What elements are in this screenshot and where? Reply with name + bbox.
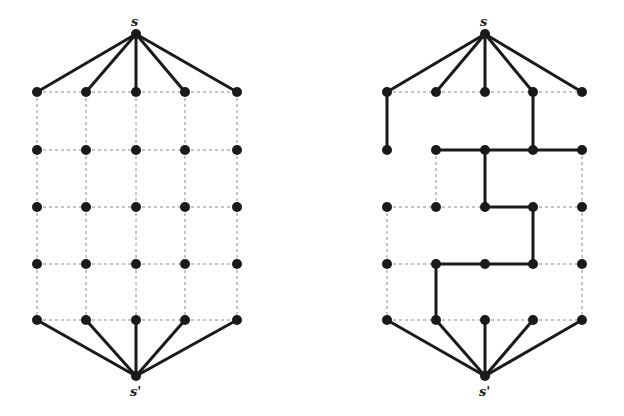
grid-node	[431, 145, 441, 155]
grid-node	[431, 202, 441, 212]
sink-edge	[86, 320, 136, 376]
sink-node	[131, 371, 141, 381]
grid-node	[131, 202, 141, 212]
grid-node	[131, 145, 141, 155]
right-sink-label: s'	[479, 384, 490, 399]
sink-node	[480, 371, 490, 381]
grid-node	[431, 259, 441, 269]
source-node	[480, 29, 490, 39]
grid-node	[382, 145, 392, 155]
source-edge	[136, 34, 185, 92]
grid-node	[528, 315, 538, 325]
grid-node	[131, 87, 141, 97]
grid-node	[32, 145, 42, 155]
grid-node	[232, 202, 242, 212]
grid-node	[480, 202, 490, 212]
grid-node	[180, 145, 190, 155]
grid-node	[232, 145, 242, 155]
grid-node	[180, 315, 190, 325]
grid-node	[180, 259, 190, 269]
source-node	[131, 29, 141, 39]
sink-edge	[136, 320, 237, 376]
sink-edge	[387, 320, 485, 376]
grid-node	[382, 202, 392, 212]
grid-node	[232, 87, 242, 97]
grid-node	[528, 87, 538, 97]
grid-node	[431, 315, 441, 325]
grid-node	[81, 259, 91, 269]
grid-node	[577, 315, 587, 325]
grid-node	[528, 202, 538, 212]
right-source-label: s	[480, 14, 488, 29]
grid-node	[480, 259, 490, 269]
source-edge	[436, 34, 485, 92]
grid-node	[431, 87, 441, 97]
grid-node	[382, 259, 392, 269]
grid-node	[480, 87, 490, 97]
source-edge	[485, 34, 582, 92]
grid-node	[577, 202, 587, 212]
sink-edge	[37, 320, 136, 376]
grid-node	[81, 315, 91, 325]
grid-node	[577, 87, 587, 97]
source-edge	[37, 34, 136, 92]
source-edge	[485, 34, 533, 92]
grid-node	[480, 315, 490, 325]
left-source-label: s	[131, 14, 139, 29]
grid-node	[382, 87, 392, 97]
source-edge	[136, 34, 237, 92]
grid-node	[81, 202, 91, 212]
grid-node	[81, 87, 91, 97]
grid-node	[32, 202, 42, 212]
grid-node	[528, 145, 538, 155]
grid-node	[232, 315, 242, 325]
grid-node	[180, 202, 190, 212]
grid-node	[382, 315, 392, 325]
source-edge	[86, 34, 136, 92]
grid-node	[131, 259, 141, 269]
grid-node	[32, 87, 42, 97]
sink-edge	[136, 320, 185, 376]
left-grid-graph	[32, 29, 242, 381]
grid-node	[81, 145, 91, 155]
grid-node	[577, 259, 587, 269]
grid-node	[180, 87, 190, 97]
grid-node	[577, 145, 587, 155]
grid-node	[232, 259, 242, 269]
right-grid-graph	[382, 29, 587, 381]
graph-diagram: s s' s s'	[0, 0, 624, 416]
sink-edge	[485, 320, 582, 376]
sink-edge	[436, 320, 485, 376]
grid-node	[480, 145, 490, 155]
sink-edge	[485, 320, 533, 376]
grid-node	[131, 315, 141, 325]
grid-node	[528, 259, 538, 269]
grid-node	[32, 315, 42, 325]
left-sink-label: s'	[130, 384, 141, 399]
grid-node	[32, 259, 42, 269]
source-edge	[387, 34, 485, 92]
